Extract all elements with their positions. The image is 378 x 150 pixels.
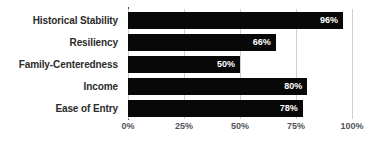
category-label-text: Family-Centeredness [19, 59, 118, 70]
x-tick-label: 25% [175, 121, 193, 132]
bars-layer: 96% 66% 50% 80% 78% [128, 9, 352, 119]
category-label-ease-of-entry: Ease of Entry [0, 97, 124, 119]
bar-row: 96% [128, 9, 352, 31]
category-label-historical-stability: Historical Stability [0, 9, 124, 31]
category-label-text: Resiliency [70, 37, 118, 48]
x-axis-tick-labels: 0%25%50%75%100% [128, 121, 352, 137]
category-axis: Historical Stability Resiliency Family-C… [0, 9, 124, 119]
bar-value-label: 66% [253, 38, 271, 47]
horizontal-bar-chart: Historical Stability Resiliency Family-C… [0, 0, 378, 150]
bar-row: 80% [128, 75, 352, 97]
category-label-income: Income [0, 75, 124, 97]
category-label-text: Income [84, 81, 118, 92]
category-label-text: Historical Stability [33, 15, 118, 26]
bar-value-label: 80% [284, 82, 302, 91]
bar-value-label: 50% [217, 60, 235, 69]
x-tick-label: 100% [340, 121, 363, 132]
gridline [352, 9, 353, 119]
category-label-text: Ease of Entry [55, 103, 118, 114]
bar-historical-stability: 96% [128, 12, 343, 29]
x-tick-label: 50% [231, 121, 249, 132]
bar-ease-of-entry: 78% [128, 100, 303, 117]
x-tick-label: 0% [121, 121, 134, 132]
bar-row: 78% [128, 97, 352, 119]
category-label-resiliency: Resiliency [0, 31, 124, 53]
x-tick-label: 75% [287, 121, 305, 132]
bar-row: 50% [128, 53, 352, 75]
bar-value-label: 78% [280, 104, 298, 113]
bar-family-centeredness: 50% [128, 56, 240, 73]
bar-income: 80% [128, 78, 307, 95]
bar-value-label: 96% [320, 16, 338, 25]
plot-area: 96% 66% 50% 80% 78% [128, 9, 352, 119]
bar-row: 66% [128, 31, 352, 53]
bar-resiliency: 66% [128, 34, 276, 51]
category-label-family-centeredness: Family-Centeredness [0, 53, 124, 75]
